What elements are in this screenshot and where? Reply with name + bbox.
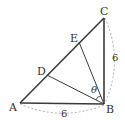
angle-arc-theta [96, 96, 101, 100]
label-b: B [106, 103, 114, 116]
segment-ab [20, 103, 104, 104]
length-label-ab: 6 [61, 108, 67, 119]
angle-label-theta: θ [91, 84, 97, 95]
label-a: A [8, 101, 18, 114]
label-d: D [37, 65, 46, 78]
length-label-bc: 6 [112, 52, 118, 63]
label-c: C [100, 5, 108, 18]
triangle-diagram: A B C D E θ 6 6 [0, 0, 125, 120]
label-e: E [70, 32, 78, 45]
